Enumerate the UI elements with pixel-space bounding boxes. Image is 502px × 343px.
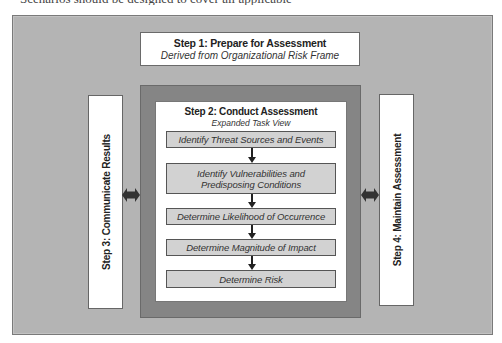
arrow-down-icon [248, 225, 256, 239]
step4-box: Step 4: Maintain Assessment [379, 94, 414, 306]
task-determine-impact: Determine Magnitude of Impact [166, 239, 336, 256]
task-label: Determine Likelihood of Occurrence [177, 211, 325, 222]
task-label: Identify Threat Sources and Events [179, 134, 324, 145]
arrow-down-icon [248, 148, 256, 163]
task-label-line1: Identify Vulnerabilities and [197, 168, 305, 179]
step4-title: Step 4: Maintain Assessment [391, 134, 402, 267]
task-determine-likelihood: Determine Likelihood of Occurrence [166, 208, 336, 225]
arrow-down-icon [248, 194, 256, 208]
double-arrow-icon [361, 188, 379, 202]
task-identify-threat-sources: Identify Threat Sources and Events [166, 131, 336, 148]
step2-subtitle: Expanded Task View [155, 118, 347, 128]
task-label: Determine Risk [219, 274, 283, 285]
cut-off-caption-text: Scenarios should be designed to cover al… [20, 0, 400, 5]
arrow-down-icon [248, 256, 256, 270]
task-determine-risk: Determine Risk [166, 270, 336, 288]
step2-title: Step 2: Conduct Assessment [155, 106, 347, 117]
task-label: Determine Magnitude of Impact [186, 242, 316, 253]
task-label-line2: Predisposing Conditions [201, 179, 301, 190]
step1-box: Step 1: Prepare for Assessment Derived f… [140, 32, 360, 66]
double-arrow-icon [122, 188, 140, 202]
step1-subtitle: Derived from Organizational Risk Frame [141, 50, 359, 61]
step1-title: Step 1: Prepare for Assessment [141, 37, 359, 49]
task-identify-vulnerabilities: Identify Vulnerabilities and Predisposin… [166, 163, 336, 194]
step3-box: Step 3: Communicate Results [88, 95, 123, 309]
step3-title: Step 3: Communicate Results [100, 134, 111, 270]
